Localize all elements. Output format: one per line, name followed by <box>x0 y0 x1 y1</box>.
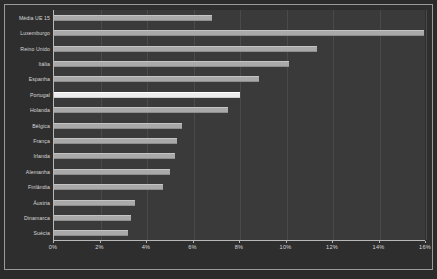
bar-dinamarca <box>54 215 131 221</box>
x-tick-label: 16% <box>419 244 431 250</box>
category-label: Itália <box>2 61 50 67</box>
gridline <box>240 10 241 240</box>
category-label: Reino Unido <box>2 46 50 52</box>
bar-ustria <box>54 200 135 206</box>
category-label: Áustria <box>2 200 50 206</box>
category-label: Média UE 15 <box>2 15 50 21</box>
bar-alemanha <box>54 169 170 175</box>
bar-chart: Média UE 15LuxemburgoReino UnidoItáliaEs… <box>0 0 437 279</box>
gridline <box>194 10 195 240</box>
x-tick-mark <box>193 241 194 243</box>
x-tick-label: 6% <box>188 244 197 250</box>
bar-portugal <box>54 92 240 98</box>
category-label: Irlanda <box>2 153 50 159</box>
x-tick-label: 14% <box>373 244 385 250</box>
bar-row <box>54 230 128 236</box>
bar-row <box>54 30 424 36</box>
category-label: Portugal <box>2 92 50 98</box>
gridline <box>380 10 381 240</box>
bar-row <box>54 169 170 175</box>
x-tick-mark <box>100 241 101 243</box>
bar-irlanda <box>54 153 175 159</box>
bar-m-dia-ue-15 <box>54 15 212 21</box>
bar-row <box>54 200 135 206</box>
category-label: Suécia <box>2 230 50 236</box>
x-tick-label: 0% <box>49 244 58 250</box>
x-tick-mark <box>53 241 54 243</box>
gridline <box>426 10 427 240</box>
bar-holanda <box>54 107 228 113</box>
bar-row <box>54 138 177 144</box>
category-label: Alemanha <box>2 169 50 175</box>
x-tick-mark <box>332 241 333 243</box>
x-tick-mark <box>146 241 147 243</box>
bar-row <box>54 215 131 221</box>
category-axis: Média UE 15LuxemburgoReino UnidoItáliaEs… <box>0 10 50 241</box>
x-tick-label: 4% <box>142 244 151 250</box>
x-tick-label: 12% <box>326 244 338 250</box>
category-label: Dinamarca <box>2 215 50 221</box>
bar-su-cia <box>54 230 128 236</box>
bar-row <box>54 153 175 159</box>
x-tick-mark <box>239 241 240 243</box>
gridline <box>287 10 288 240</box>
category-label: Bélgica <box>2 123 50 129</box>
bar-it-lia <box>54 61 289 67</box>
x-tick-mark <box>286 241 287 243</box>
x-tick-mark <box>425 241 426 243</box>
bar-row <box>54 76 259 82</box>
category-label: Finlândia <box>2 184 50 190</box>
bar-row <box>54 123 182 129</box>
bar-row <box>54 184 163 190</box>
category-label: França <box>2 138 50 144</box>
bar-row <box>54 61 289 67</box>
category-label: Luxemburgo <box>2 30 50 36</box>
category-label: Holanda <box>2 107 50 113</box>
bar-espanha <box>54 76 259 82</box>
bar-fran-a <box>54 138 177 144</box>
bar-row <box>54 15 212 21</box>
bar-b-lgica <box>54 123 182 129</box>
x-tick-label: 10% <box>280 244 292 250</box>
x-tick-mark <box>379 241 380 243</box>
bar-luxemburgo <box>54 30 424 36</box>
bar-reino-unido <box>54 46 317 52</box>
x-tick-label: 8% <box>235 244 244 250</box>
bar-row <box>54 107 228 113</box>
bar-finl-ndia <box>54 184 163 190</box>
x-axis: 0%2%4%6%8%10%12%14%16% <box>53 241 425 259</box>
gridline <box>333 10 334 240</box>
x-tick-label: 2% <box>95 244 104 250</box>
bar-row <box>54 92 240 98</box>
plot-area <box>53 10 425 241</box>
bar-row <box>54 46 317 52</box>
category-label: Espanha <box>2 76 50 82</box>
